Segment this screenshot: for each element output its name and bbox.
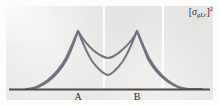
- plot-svg: [6, 6, 213, 100]
- y-axis-label: [σgLr]2: [189, 7, 213, 17]
- gridlines: [104, 6, 163, 89]
- x-tick-label-a: A: [68, 92, 88, 102]
- y-axis-label-subscript: gLr: [197, 11, 206, 18]
- x-tick-label-b: B: [127, 92, 147, 102]
- figure-container: [σgLr]2 A B: [0, 0, 219, 106]
- y-axis-label-exponent: 2: [210, 5, 213, 12]
- curve-lower-branch: [26, 31, 202, 89]
- curve-upper-branch: [28, 31, 200, 89]
- plot-area: [6, 6, 213, 100]
